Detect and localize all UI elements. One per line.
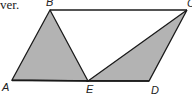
caption-fragment: ver. bbox=[0, 0, 19, 12]
point-label-c: C bbox=[187, 0, 192, 9]
segment-ad bbox=[12, 81, 149, 82]
point-label-d: D bbox=[151, 84, 159, 96]
point-label-b: B bbox=[46, 0, 53, 8]
shaded-triangle-abe bbox=[12, 10, 88, 81]
point-label-e: E bbox=[86, 83, 94, 95]
parallelogram-diagram: ver. B C A E D bbox=[0, 0, 192, 97]
point-label-a: A bbox=[1, 81, 9, 93]
shaded-triangle-ecd bbox=[88, 10, 187, 81]
